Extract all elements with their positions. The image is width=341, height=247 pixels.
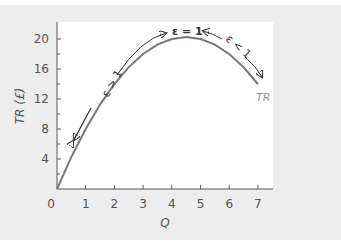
inelastic-arrow-up (203, 31, 222, 39)
curve-label: TR (256, 91, 270, 104)
inelastic-label: ε < 1 (223, 32, 254, 61)
x-tick-label: 7 (254, 197, 262, 211)
y-tick-label: 16 (34, 62, 49, 76)
elastic-arrow-up (117, 33, 166, 75)
y-tick-label: 20 (34, 32, 49, 46)
x-tick-labels: 01234567 (47, 197, 262, 211)
tr-curve (57, 37, 258, 189)
tr-chart: 48121620 01234567 Q TR (£) ε > 1 ε = 1 ε… (0, 0, 341, 247)
elastic-label: ε > 1 (99, 68, 125, 100)
y-ticks (57, 39, 61, 174)
x-tick-label: 0 (47, 197, 55, 211)
x-tick-label: 5 (197, 197, 205, 211)
x-tick-label: 4 (168, 197, 176, 211)
x-axis-label: Q (160, 216, 169, 230)
unit-elastic-label: ε = 1 (172, 25, 203, 38)
y-tick-labels: 48121620 (34, 32, 49, 166)
x-tick-label: 1 (82, 197, 90, 211)
y-tick-label: 12 (34, 92, 49, 106)
y-tick-label: 4 (41, 152, 49, 166)
x-ticks (86, 185, 258, 189)
x-tick-label: 2 (111, 197, 119, 211)
y-axis-label: TR (£) (13, 88, 27, 124)
y-tick-label: 8 (41, 122, 49, 136)
inelastic-arrow-down (245, 57, 262, 77)
x-tick-label: 3 (139, 197, 147, 211)
x-tick-label: 6 (225, 197, 233, 211)
